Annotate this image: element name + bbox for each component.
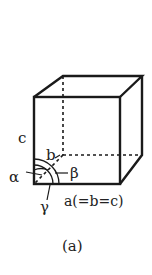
- label-c: c: [18, 129, 26, 147]
- label-alpha: α: [9, 168, 19, 186]
- cubic-unit-cell-diagram: c b α β γ a(=b=c) (a): [0, 0, 152, 275]
- label-beta: β: [70, 164, 79, 182]
- label-gamma: γ: [40, 198, 49, 216]
- figure-caption: (a): [62, 237, 83, 255]
- label-b: b: [46, 146, 56, 164]
- b-leader: [55, 155, 60, 158]
- arc-gamma: [34, 169, 48, 170]
- label-a-equals: a(=b=c): [64, 193, 124, 209]
- top-face: [34, 76, 142, 97]
